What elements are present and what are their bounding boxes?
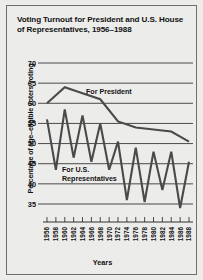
chart-figure: Voting Turnout for President and U.S. Ho…: [6, 5, 197, 275]
y-tick-label: 55: [28, 119, 36, 128]
x-axis-label: Years: [7, 258, 198, 267]
x-tick-label: 1986: [177, 227, 184, 242]
x-tick-label: 1976: [132, 227, 139, 242]
x-tick-label: 1974: [123, 227, 130, 242]
annotation-president: For President: [86, 88, 132, 96]
x-tick-label: 1956: [43, 227, 50, 242]
x-tick-label: 1972: [114, 227, 121, 242]
x-tick-label: 1962: [70, 227, 77, 242]
y-tick-label: 65: [28, 79, 36, 88]
x-tick-label: 1970: [106, 227, 113, 242]
y-tick-label: 60: [28, 99, 36, 108]
x-tick-label: 1980: [150, 227, 157, 242]
annotation-house-line1: For U.S.: [62, 166, 89, 174]
x-tick-label: 1988: [185, 227, 192, 242]
x-tick-label: 1982: [159, 227, 166, 242]
chart-canvas: 3540455055606570195619581960196219641966…: [7, 6, 198, 276]
x-tick-label: 1966: [88, 227, 95, 242]
plot-area: 3540455055606570195619581960196219641966…: [7, 6, 198, 276]
y-tick-label: 50: [28, 139, 36, 148]
y-tick-label: 35: [28, 200, 36, 209]
series-line-house: [47, 109, 189, 208]
x-tick-label: 1960: [61, 227, 68, 242]
y-tick-label: 45: [28, 159, 36, 168]
x-tick-label: 1958: [52, 227, 59, 242]
x-tick-label: 1984: [168, 227, 175, 242]
annotation-house-line2: Representatives: [62, 175, 117, 183]
x-tick-label: 1964: [79, 227, 86, 242]
x-tick-label: 1968: [97, 227, 104, 242]
x-tick-label: 1978: [141, 227, 148, 242]
y-tick-label: 40: [28, 180, 36, 189]
y-tick-label: 70: [28, 59, 36, 68]
